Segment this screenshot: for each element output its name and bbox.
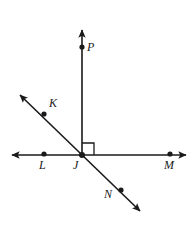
point-label-L: L [39,159,46,171]
point-dot-M [167,151,172,156]
point-dot-K [41,111,46,116]
geometry-canvas [0,0,196,231]
geometry-figure: P K L J M N [0,0,196,231]
point-dot-L [41,151,46,156]
point-dot-P [79,44,84,49]
point-label-M: M [164,159,174,171]
point-label-N: N [104,188,112,200]
point-dot-J [79,152,85,158]
point-dot-N [118,187,123,192]
point-label-J: J [73,159,78,171]
point-dots-group [41,44,172,192]
lines-group [12,30,186,211]
point-label-P: P [87,41,94,53]
point-label-K: K [49,97,57,109]
